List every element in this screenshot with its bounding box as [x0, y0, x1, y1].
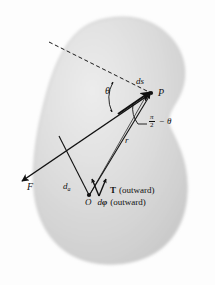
diagram-svg: [0, 0, 215, 285]
label-ds: ds: [136, 77, 144, 86]
label-origin-dphi-line: Odφ(outward): [85, 198, 146, 207]
label-dphi-symbol: φ: [102, 197, 107, 207]
label-moment-arm-subscript: a: [68, 186, 71, 192]
fraction-pi-over-two: π 2: [149, 114, 155, 130]
label-point-p: P: [158, 88, 164, 98]
label-theta: θ: [105, 86, 110, 96]
label-moment-arm: da: [63, 176, 71, 192]
label-minus-theta: − θ: [159, 116, 172, 126]
label-r: r: [125, 136, 129, 145]
fraction-denominator: 2: [149, 121, 155, 129]
label-dphi-note: (outward): [110, 197, 146, 207]
figure-canvas: ds P θ r π 2 − θ F da T(outward) Odφ(out…: [0, 0, 215, 285]
label-torque-note: (outward): [119, 185, 155, 195]
body-blob: [34, 17, 187, 264]
point-p-marker: [149, 91, 153, 95]
label-torque-line: T(outward): [110, 186, 155, 195]
label-torque-symbol: T: [110, 185, 116, 195]
fraction-numerator: π: [149, 114, 155, 121]
label-pi-over-two-minus-theta: π 2 − θ: [149, 114, 172, 130]
label-force-f: F: [27, 182, 33, 192]
label-point-o: O: [85, 197, 92, 207]
